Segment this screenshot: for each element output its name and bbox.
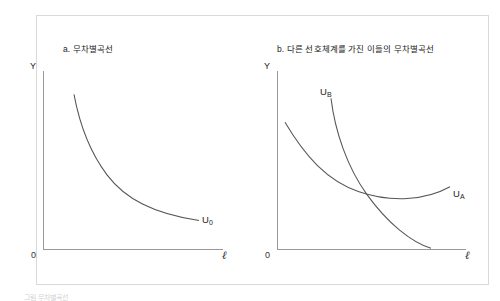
panel-b-curve-label-ub-base: U <box>320 86 327 97</box>
panel-b-curve-ub <box>331 98 431 248</box>
panel-a-origin-label: 0 <box>31 250 36 260</box>
figure-frame: a. 무차별곡선 Y ℓ 0 U0 b. 다른 선호체계를 가진 이들의 무차별… <box>36 15 489 285</box>
figure-root: a. 무차별곡선 Y ℓ 0 U0 b. 다른 선호체계를 가진 이들의 무차별… <box>0 0 500 301</box>
panel-a-curve-label-u0: U0 <box>202 214 213 225</box>
panel-b: b. 다른 선호체계를 가진 이들의 무차별곡선 Y ℓ 0 UB UA <box>263 16 490 284</box>
panel-a-y-axis-label: Y <box>30 61 36 71</box>
panel-b-curve-label-ub: UB <box>320 86 332 97</box>
panel-b-x-axis-label: ℓ <box>465 249 470 261</box>
panel-b-curve-label-ua: UA <box>453 188 465 199</box>
panel-b-curve-label-ub-sub: B <box>327 91 332 98</box>
panel-b-origin-label: 0 <box>265 250 270 260</box>
panel-a-curve-label-u0-sub: 0 <box>209 219 213 226</box>
panel-a-curve-u0 <box>74 94 199 220</box>
panel-b-curve-ua <box>285 122 450 198</box>
panel-b-curve-label-ua-sub: A <box>460 193 465 200</box>
panel-a-plot <box>37 16 263 284</box>
figure-caption: 그림 무차별곡선 <box>24 292 68 301</box>
panel-b-plot <box>263 16 490 284</box>
panel-a-x-axis-label: ℓ <box>222 249 227 261</box>
panel-a: a. 무차별곡선 Y ℓ 0 U0 <box>37 16 263 284</box>
panel-a-curve-label-u0-base: U <box>202 214 209 225</box>
panel-b-y-axis-label: Y <box>264 61 270 71</box>
panel-b-curve-label-ua-base: U <box>453 188 460 199</box>
